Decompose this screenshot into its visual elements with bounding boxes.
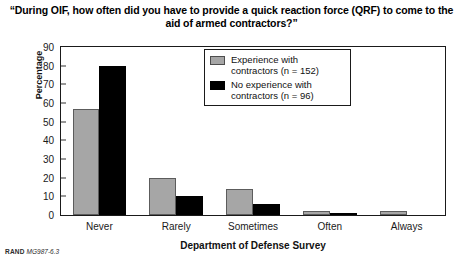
legend-label: No experience with contractors (n = 96) (231, 79, 344, 101)
legend-item-no-experience: No experience with contractors (n = 96) (210, 79, 344, 101)
y-axis-tick-label: 20 (21, 172, 61, 183)
bar (99, 66, 126, 215)
legend-label: Experience with contractors (n = 152) (231, 54, 344, 76)
x-axis-tick-label: Sometimes (215, 221, 292, 232)
bar (380, 211, 407, 215)
x-axis-tick-label: Never (61, 221, 138, 232)
y-axis-tick-label: 70 (21, 79, 61, 90)
bar (330, 213, 357, 215)
legend-swatch-gray-icon (210, 56, 225, 65)
footer-brand: RAND (5, 248, 25, 255)
figure-footer: RANDMG987-6.3 (5, 248, 59, 255)
x-axis-tick-label: Rarely (138, 221, 215, 232)
chart-title: “During OIF, how often did you have to p… (8, 4, 455, 30)
y-axis-tick-label: 30 (21, 154, 61, 165)
bar (226, 189, 253, 215)
bar (149, 178, 176, 215)
bar (253, 204, 280, 215)
x-axis-tick-label: Often (291, 221, 368, 232)
chart-legend: Experience with contractors (n = 152) No… (204, 49, 351, 106)
x-axis-label: Department of Defense Survey (60, 240, 446, 251)
bar (303, 211, 330, 215)
chart-figure: “During OIF, how often did you have to p… (0, 0, 463, 273)
bar (73, 109, 100, 215)
bar-group: Always (368, 47, 445, 215)
y-axis-tick-label: 50 (21, 116, 61, 127)
y-axis-tick-label: 60 (21, 98, 61, 109)
bar (176, 196, 203, 215)
bar-group: Never (61, 47, 138, 215)
legend-item-experience: Experience with contractors (n = 152) (210, 54, 344, 76)
y-axis-tick-label: 80 (21, 60, 61, 71)
y-axis-tick-label: 10 (21, 191, 61, 202)
legend-swatch-black-icon (210, 81, 225, 90)
y-axis-tick-label: 40 (21, 135, 61, 146)
y-axis-tick-label: 0 (21, 210, 61, 221)
x-axis-tick-label: Always (368, 221, 445, 232)
y-axis-tick-label: 90 (21, 42, 61, 53)
footer-code: MG987-6.3 (27, 248, 60, 255)
